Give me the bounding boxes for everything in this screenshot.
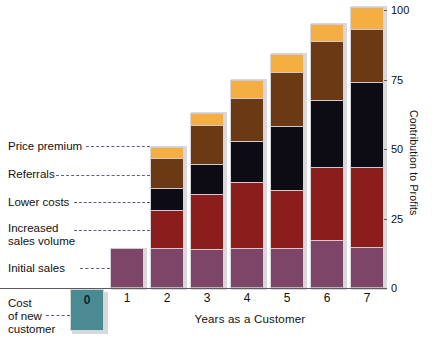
leader-line-referrals: [56, 175, 150, 176]
x-tick-label-4: 4: [230, 291, 264, 305]
segment-referrals[interactable]: [230, 98, 264, 141]
bar-year-3[interactable]: [190, 113, 224, 288]
segment-lower-costs[interactable]: [270, 126, 304, 190]
leader-line-initial-sales: [80, 268, 110, 269]
segment-initial-sales[interactable]: [350, 247, 384, 288]
legend-item-initial-sales: Initial sales: [8, 262, 65, 275]
x-tick-label-7: 7: [350, 291, 384, 305]
segment-increased-sales-volume[interactable]: [270, 190, 304, 248]
bar-year-4[interactable]: [230, 80, 264, 288]
chart-container: 0: [0, 0, 438, 350]
y-tick-label-50: 50: [391, 144, 403, 154]
legend-item-cost-of-new-customer-line3: customer: [8, 323, 55, 336]
leader-line-price-premium: [86, 146, 150, 147]
segment-price-premium[interactable]: [310, 24, 344, 41]
y-tick-label-25: 25: [391, 214, 403, 224]
segment-referrals[interactable]: [190, 125, 224, 164]
segment-initial-sales[interactable]: [270, 248, 304, 288]
segment-initial-sales[interactable]: [110, 248, 144, 288]
segment-lower-costs[interactable]: [230, 141, 264, 182]
segment-price-premium[interactable]: [270, 54, 304, 72]
y-tick-label-100: 100: [391, 5, 409, 15]
segment-lower-costs[interactable]: [150, 188, 184, 210]
segment-price-premium[interactable]: [190, 113, 224, 125]
segment-initial-sales[interactable]: [310, 240, 344, 288]
bar-year-2[interactable]: [150, 147, 184, 288]
legend-item-cost-of-new-customer-line2: of new: [8, 310, 42, 323]
y-tick-label-0: 0: [391, 283, 397, 293]
bar-year-7[interactable]: [350, 7, 384, 288]
segment-lower-costs[interactable]: [350, 82, 384, 167]
bar-year-5[interactable]: [270, 54, 304, 288]
bar-year-1[interactable]: [110, 248, 144, 288]
x-tick-label-1: 1: [110, 291, 144, 305]
segment-price-premium[interactable]: [230, 80, 264, 98]
x-axis-title: Years as a Customer: [150, 313, 350, 325]
segment-referrals[interactable]: [270, 72, 304, 126]
leader-line-lower-costs: [74, 202, 150, 203]
segment-price-premium[interactable]: [150, 147, 184, 158]
segment-referrals[interactable]: [150, 158, 184, 188]
segment-increased-sales-volume[interactable]: [310, 167, 344, 240]
y-tick-label-75: 75: [391, 75, 403, 85]
segment-referrals[interactable]: [350, 29, 384, 82]
segment-initial-sales[interactable]: [150, 248, 184, 288]
x-axis-line: [0, 288, 380, 289]
bar-year-6[interactable]: [310, 24, 344, 288]
legend-item-price-premium: Price premium: [8, 140, 82, 153]
segment-price-premium[interactable]: [350, 7, 384, 29]
segment-lower-costs[interactable]: [310, 100, 344, 167]
segment-increased-sales-volume[interactable]: [150, 210, 184, 248]
x-tick-label-5: 5: [270, 291, 304, 305]
legend-item-increased-sales-volume-line1: Increased: [8, 222, 59, 235]
x-tick-label-6: 6: [310, 291, 344, 305]
legend-item-increased-sales-volume-line2: sales volume: [8, 235, 75, 248]
segment-increased-sales-volume[interactable]: [230, 182, 264, 248]
bar-value-label-year-0: 0: [70, 293, 104, 307]
x-tick-label-2: 2: [150, 291, 184, 305]
x-tick-label-3: 3: [190, 291, 224, 305]
segment-lower-costs[interactable]: [190, 164, 224, 194]
legend-item-cost-of-new-customer-line1: Cost: [8, 297, 32, 310]
leader-line-cost-of-new-customer: [46, 315, 70, 316]
segment-increased-sales-volume[interactable]: [350, 167, 384, 247]
legend-item-lower-costs: Lower costs: [8, 196, 69, 209]
segment-referrals[interactable]: [310, 41, 344, 100]
y-axis-title: Contribution to Profits: [408, 110, 420, 216]
y-tick-0: [378, 288, 387, 289]
leader-line-increased-sales-volume: [74, 230, 150, 231]
legend-item-referrals: Referrals: [8, 168, 55, 181]
segment-initial-sales[interactable]: [190, 249, 224, 288]
segment-increased-sales-volume[interactable]: [190, 194, 224, 249]
segment-initial-sales[interactable]: [230, 248, 264, 288]
